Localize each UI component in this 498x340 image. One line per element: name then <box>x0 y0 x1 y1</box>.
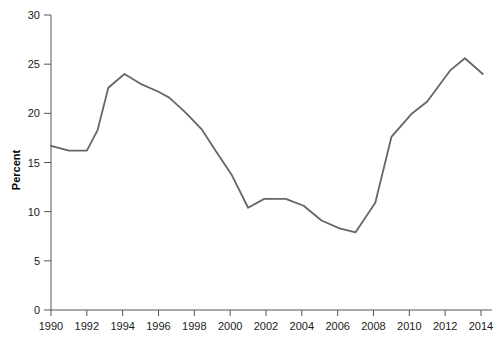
data-series-line <box>51 58 483 232</box>
x-tick-label: 2004 <box>290 320 314 332</box>
axis-group <box>51 15 492 310</box>
y-tick-label: 30 <box>28 9 40 21</box>
data-group <box>51 58 483 232</box>
y-tick-label: 10 <box>28 206 40 218</box>
y-axis-title: Percent <box>10 149 22 190</box>
y-axis-title-group: Percent <box>10 149 22 190</box>
y-tick-label: 25 <box>28 58 40 70</box>
x-tick-label: 2010 <box>397 320 421 332</box>
x-tick-label: 2008 <box>361 320 385 332</box>
x-tick-label: 1998 <box>182 320 206 332</box>
x-axis-ticks: 1990199219941996199820002002200420062008… <box>39 310 493 332</box>
y-tick-label: 15 <box>28 157 40 169</box>
x-tick-label: 2014 <box>469 320 493 332</box>
x-tick-label: 2000 <box>218 320 242 332</box>
y-tick-label: 5 <box>34 255 40 267</box>
x-tick-label: 2002 <box>254 320 278 332</box>
y-tick-label: 20 <box>28 107 40 119</box>
y-tick-label: 0 <box>34 304 40 316</box>
x-tick-label: 2012 <box>433 320 457 332</box>
chart-page: 051015202530 199019921994199619982000200… <box>0 0 498 340</box>
x-tick-label: 1990 <box>39 320 63 332</box>
x-tick-label: 2006 <box>325 320 349 332</box>
x-tick-label: 1996 <box>146 320 170 332</box>
line-chart: 051015202530 199019921994199619982000200… <box>0 0 498 340</box>
y-axis-ticks: 051015202530 <box>28 9 51 316</box>
x-tick-label: 1992 <box>75 320 99 332</box>
x-tick-label: 1994 <box>110 320 134 332</box>
